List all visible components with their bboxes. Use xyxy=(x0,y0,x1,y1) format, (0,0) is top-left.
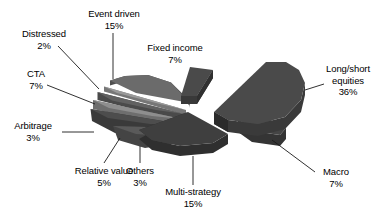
label-arbitrage-percent: 3% xyxy=(2,132,64,144)
label-long-short-equities-name-line1: Long/short xyxy=(314,63,382,75)
label-macro: Macro 7% xyxy=(310,166,362,189)
label-event-driven-percent: 15% xyxy=(72,20,156,32)
label-long-short-equities-name-line2: equities xyxy=(314,75,382,87)
label-long-short-equities: Long/short equities 36% xyxy=(314,63,382,98)
pie-slice-long-short-equities xyxy=(214,62,305,136)
label-arbitrage-name: Arbitrage xyxy=(2,120,64,132)
label-multi-strategy-percent: 15% xyxy=(147,198,239,210)
pie-chart-figure: Event driven 15% Distressed 2% CTA 7% Ar… xyxy=(0,0,385,222)
label-others-name: Others xyxy=(116,165,164,177)
label-event-driven-name: Event driven xyxy=(72,8,156,20)
label-cta-percent: 7% xyxy=(12,80,60,92)
label-fixed-income-percent: 7% xyxy=(132,54,218,66)
label-macro-name: Macro xyxy=(310,166,362,178)
label-others: Others 3% xyxy=(116,165,164,188)
pie-slice-fixed-income xyxy=(181,67,213,104)
label-long-short-equities-percent: 36% xyxy=(314,86,382,98)
label-cta: CTA 7% xyxy=(12,68,60,91)
label-fixed-income-name: Fixed income xyxy=(132,42,218,54)
leader-line-relative-value xyxy=(104,138,120,163)
label-distressed: Distressed 2% xyxy=(8,28,80,51)
label-distressed-percent: 2% xyxy=(8,40,80,52)
label-multi-strategy-name: Multi-strategy xyxy=(147,186,239,198)
label-macro-percent: 7% xyxy=(310,178,362,190)
label-fixed-income: Fixed income 7% xyxy=(132,42,218,65)
label-distressed-name: Distressed xyxy=(8,28,80,40)
label-event-driven: Event driven 15% xyxy=(72,8,156,31)
label-arbitrage: Arbitrage 3% xyxy=(2,120,64,143)
label-multi-strategy: Multi-strategy 15% xyxy=(147,186,239,209)
label-cta-name: CTA xyxy=(12,68,60,80)
leader-line-distressed xyxy=(58,46,99,89)
leader-line-macro xyxy=(272,140,315,172)
